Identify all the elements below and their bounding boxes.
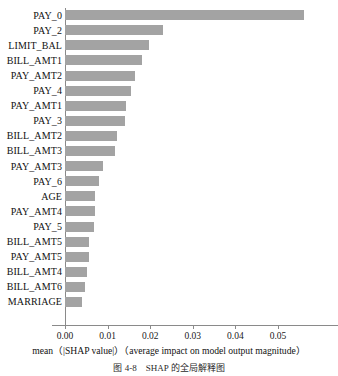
bar	[65, 206, 95, 216]
bar-category-label: LIMIT_BAL	[8, 39, 62, 52]
bar-row: BILL_AMT1	[0, 53, 338, 68]
bar	[65, 222, 94, 232]
bar-category-label: BILL_AMT1	[7, 54, 62, 67]
x-axis-tick	[278, 325, 279, 329]
bar-category-label: PAY_AMT2	[11, 69, 62, 82]
bar-row: BILL_AMT2	[0, 129, 338, 144]
bar-category-label: PAY_AMT3	[11, 160, 62, 173]
bar-category-label: PAY_5	[33, 220, 62, 233]
bar-row: LIMIT_BAL	[0, 38, 338, 53]
x-axis-tick	[150, 325, 151, 329]
bar	[65, 101, 126, 111]
x-axis-label: mean（|SHAP value|）（average impact on mod…	[0, 345, 338, 357]
bar-category-label: BILL_AMT4	[7, 265, 62, 278]
bar	[65, 86, 131, 96]
bar-row: PAY_6	[0, 174, 338, 189]
x-axis-line	[52, 325, 338, 326]
bar-category-label: MARRIAGE	[8, 295, 62, 308]
bar-row: PAY_5	[0, 219, 338, 234]
shap-feature-importance-figure: PAY_0PAY_2LIMIT_BALBILL_AMT1PAY_AMT2PAY_…	[0, 0, 338, 376]
bar-category-label: PAY_4	[33, 84, 62, 97]
bar	[65, 40, 149, 50]
bar-category-label: PAY_AMT1	[11, 99, 62, 112]
bar-row: PAY_2	[0, 23, 338, 38]
x-axis-tick	[65, 325, 66, 329]
bar-row: PAY_AMT1	[0, 99, 338, 114]
bar	[65, 116, 125, 126]
bar-row: PAY_AMT2	[0, 68, 338, 83]
bar-category-label: BILL_AMT5	[7, 235, 62, 248]
bar	[65, 161, 103, 171]
bar-row: PAY_AMT5	[0, 250, 338, 265]
bar-row: AGE	[0, 189, 338, 204]
bar-category-label: PAY_3	[33, 114, 62, 127]
x-axis-tick-label: 0.01	[88, 331, 128, 342]
bar-category-label: BILL_AMT3	[7, 144, 62, 157]
x-axis-tick	[235, 325, 236, 329]
bar-category-label: PAY_AMT5	[11, 250, 62, 263]
bar-row: BILL_AMT6	[0, 280, 338, 295]
bar	[65, 146, 115, 156]
bar	[65, 297, 82, 307]
x-axis-tick	[108, 325, 109, 329]
bar-category-label: PAY_0	[33, 9, 62, 22]
bar-row: BILL_AMT4	[0, 265, 338, 280]
x-axis-tick-label: 0.03	[173, 331, 213, 342]
x-axis-tick-label: 0.05	[258, 331, 298, 342]
bar	[65, 55, 142, 65]
bar-category-label: AGE	[41, 190, 62, 203]
bar-category-label: PAY_2	[33, 24, 62, 37]
bar-category-label: BILL_AMT2	[7, 129, 62, 142]
bar-row: PAY_AMT3	[0, 159, 338, 174]
bar-row: BILL_AMT3	[0, 144, 338, 159]
bar	[65, 71, 135, 81]
bar-row: MARRIAGE	[0, 295, 338, 310]
bar	[65, 191, 95, 201]
figure-caption: 图 4-8 SHAP 的全局解释图	[0, 363, 338, 376]
bar-row: PAY_0	[0, 8, 338, 23]
bar	[65, 282, 85, 292]
bar-category-label: PAY_AMT4	[11, 205, 62, 218]
bar	[65, 252, 89, 262]
bar-row: BILL_AMT5	[0, 235, 338, 250]
bar-row: PAY_3	[0, 114, 338, 129]
bar	[65, 176, 99, 186]
bar-category-label: BILL_AMT6	[7, 280, 62, 293]
bar-row: PAY_AMT4	[0, 204, 338, 219]
bar	[65, 25, 163, 35]
bar-category-label: PAY_6	[33, 175, 62, 188]
x-axis-tick	[193, 325, 194, 329]
bar-row: PAY_4	[0, 84, 338, 99]
x-axis-tick-label: 0.02	[130, 331, 170, 342]
bar	[65, 267, 87, 277]
bar	[65, 10, 304, 20]
bar	[65, 237, 89, 247]
x-axis-tick-label: 0.04	[215, 331, 255, 342]
bar	[65, 131, 117, 141]
x-axis-tick-label: 0.00	[45, 331, 85, 342]
